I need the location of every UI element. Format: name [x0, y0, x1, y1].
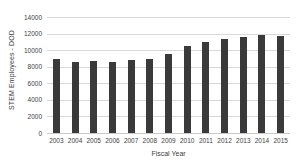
plot-area [47, 17, 290, 133]
x-tick-label: 2015 [270, 136, 292, 145]
bar [202, 42, 209, 133]
y-tick-label: 14000 [24, 14, 42, 21]
y-tick-label: 12000 [24, 30, 42, 37]
y-axis-tick-labels: 02000400060008000100001200014000 [0, 0, 44, 162]
bar [258, 35, 265, 133]
bar-chart: STEM Employees - DOD 0200040006000800010… [0, 0, 299, 162]
bar [277, 36, 284, 133]
bar [165, 54, 172, 133]
x-axis-title: Fiscal Year [47, 149, 290, 158]
y-tick-label: 2000 [28, 113, 42, 120]
bar [72, 62, 79, 133]
bar [128, 60, 135, 133]
gridline [47, 133, 290, 134]
y-tick-label: 0 [38, 130, 42, 137]
y-tick-label: 8000 [28, 63, 42, 70]
x-axis-tick-labels: 2003200420052006200720082009201020112012… [47, 136, 290, 146]
bar [146, 59, 153, 133]
bar [90, 61, 97, 133]
bar [109, 62, 116, 133]
y-tick-label: 10000 [24, 47, 42, 54]
bars-layer [47, 17, 290, 133]
bar [240, 37, 247, 133]
bar [184, 46, 191, 133]
y-tick-label: 6000 [28, 80, 42, 87]
bar [221, 39, 228, 133]
bar [53, 59, 60, 133]
y-tick-label: 4000 [28, 96, 42, 103]
